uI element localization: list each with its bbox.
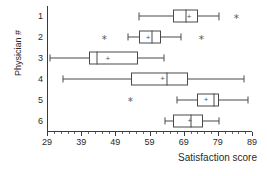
x-axis-minor-tick <box>143 132 144 134</box>
whisker-high-line <box>203 120 219 121</box>
whisker-high-cap <box>218 117 219 124</box>
whisker-low-cap <box>165 117 166 124</box>
x-axis-minor-tick <box>61 132 62 134</box>
x-axis-minor-tick <box>204 132 205 134</box>
whisker-low-line <box>165 120 173 121</box>
x-axis-minor-tick <box>129 132 130 134</box>
x-axis-tick-label: 79 <box>213 137 223 147</box>
x-axis-tick-label: 39 <box>76 137 86 147</box>
box-plot-row <box>47 6 252 131</box>
x-axis-title: Satisfaction score <box>0 152 267 163</box>
x-axis-minor-tick <box>95 132 96 134</box>
y-axis-tick-label: 1 <box>38 11 43 21</box>
x-axis-tick-label: 49 <box>110 137 120 147</box>
x-axis-minor-tick <box>245 132 246 134</box>
x-axis-minor-tick <box>102 132 103 134</box>
x-axis-tick-label: 89 <box>247 137 257 147</box>
x-axis-tick <box>81 132 82 136</box>
x-axis-tick <box>184 132 185 136</box>
mean-marker <box>188 119 191 122</box>
y-axis-tick-label: 2 <box>38 32 43 42</box>
y-axis-title: Physician # <box>13 13 23 93</box>
x-axis-minor-tick <box>109 132 110 134</box>
x-axis-minor-tick <box>88 132 89 134</box>
x-axis-tick-label: 29 <box>42 137 52 147</box>
x-axis-minor-tick <box>197 132 198 134</box>
x-axis-tick <box>47 132 48 136</box>
x-axis-minor-tick <box>74 132 75 134</box>
x-axis-minor-tick <box>191 132 192 134</box>
x-axis-minor-tick <box>225 132 226 134</box>
x-axis-tick-label: 59 <box>144 137 154 147</box>
x-axis-tick <box>218 132 219 136</box>
x-axis-minor-tick <box>238 132 239 134</box>
x-axis-minor-tick <box>136 132 137 134</box>
box-plot-figure: Physician # 123456 Satisfaction score 29… <box>0 0 267 176</box>
x-axis-tick-label: 69 <box>179 137 189 147</box>
y-axis-tick-label: 6 <box>38 116 43 126</box>
plot-area: 123456 <box>47 6 252 131</box>
x-axis-minor-tick <box>170 132 171 134</box>
x-axis-minor-tick <box>232 132 233 134</box>
x-axis-minor-tick <box>54 132 55 134</box>
x-axis-minor-tick <box>156 132 157 134</box>
x-axis-tick <box>115 132 116 136</box>
x-axis-tick <box>150 132 151 136</box>
x-axis-minor-tick <box>122 132 123 134</box>
x-axis-minor-tick <box>68 132 69 134</box>
y-axis-tick-label: 4 <box>38 74 43 84</box>
x-axis-minor-tick <box>163 132 164 134</box>
x-axis-minor-tick <box>211 132 212 134</box>
x-axis-minor-tick <box>177 132 178 134</box>
y-axis-tick-label: 3 <box>38 53 43 63</box>
y-axis-tick-label: 5 <box>38 95 43 105</box>
x-axis-tick <box>252 132 253 136</box>
